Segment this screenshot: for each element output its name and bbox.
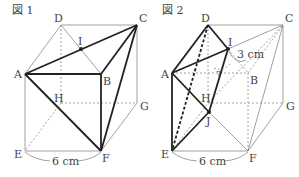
figure-1-title: 図 1: [12, 4, 34, 17]
figure-2-title: 図 2: [162, 4, 184, 17]
label-a: A: [160, 68, 170, 81]
arc-dimension-label: 3 cm: [237, 48, 265, 61]
label-f: F: [102, 152, 110, 165]
label-g: G: [286, 100, 295, 113]
point-j: [207, 110, 211, 114]
dimension-label: 6 cm: [199, 155, 227, 168]
label-h: H: [54, 92, 64, 105]
dimension-label: 6 cm: [52, 155, 80, 168]
label-c: C: [139, 12, 147, 25]
label-h: H: [201, 92, 211, 105]
label-i: I: [228, 36, 232, 49]
label-c: C: [285, 12, 293, 25]
label-i: I: [78, 35, 82, 48]
label-e: E: [161, 148, 169, 161]
figure-2: 図 2 D C: [160, 4, 295, 168]
label-f: F: [249, 152, 257, 165]
figure-1: 図 1 D C I A B H G E F 6 cm: [12, 4, 149, 168]
label-a: A: [13, 68, 23, 81]
label-d: D: [201, 12, 210, 25]
label-b: B: [250, 74, 258, 87]
label-j: J: [205, 115, 210, 128]
label-e: E: [14, 148, 22, 161]
label-d: D: [54, 12, 63, 25]
label-b: B: [103, 75, 111, 88]
angle-mark: 7: [216, 69, 221, 78]
cube-diagrams: 図 1 D C I A B H G E F 6 cm: [0, 0, 299, 177]
label-g: G: [140, 100, 149, 113]
